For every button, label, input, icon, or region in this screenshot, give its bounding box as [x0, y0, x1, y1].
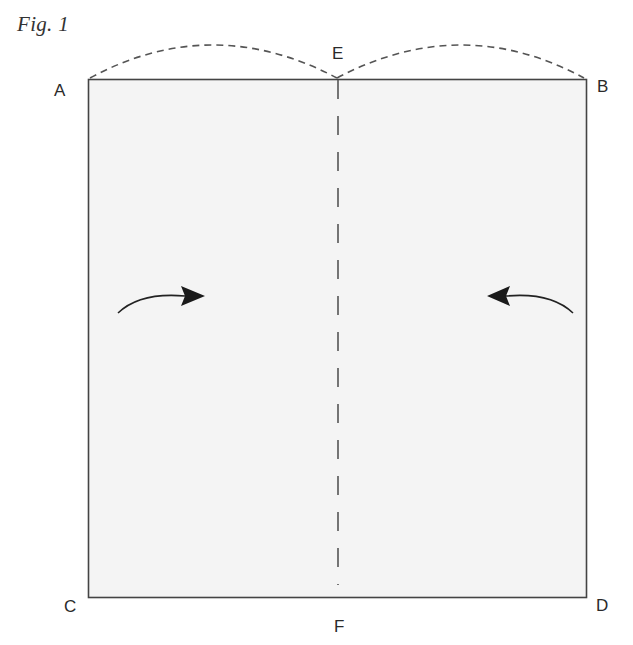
point-label-e: E: [332, 45, 343, 62]
arc-e-to-b: [337, 45, 584, 78]
folding-diagram: [0, 0, 633, 645]
point-label-c: C: [64, 598, 76, 615]
point-label-f: F: [334, 618, 344, 635]
arc-a-to-e: [90, 45, 337, 78]
point-label-b: B: [597, 78, 608, 95]
point-label-d: D: [596, 597, 608, 614]
point-label-a: A: [54, 82, 65, 99]
